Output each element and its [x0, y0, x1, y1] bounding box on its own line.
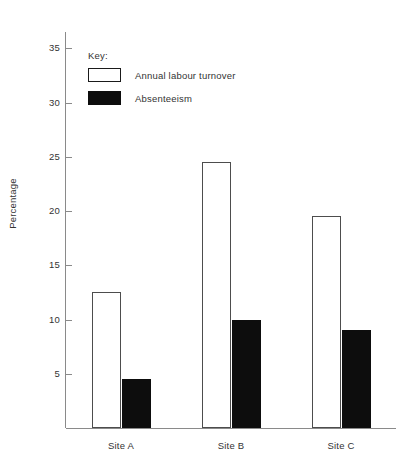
y-tick-label: 20: [14, 206, 60, 216]
legend-title: Key:: [88, 50, 288, 61]
y-tick-label: 15: [14, 260, 60, 270]
legend-item: Annual labour turnover: [88, 68, 288, 82]
legend-item-label: Absenteeism: [135, 93, 192, 104]
bar-turnover: [202, 162, 231, 428]
legend-item-label: Annual labour turnover: [135, 70, 236, 81]
bar-turnover: [312, 216, 341, 428]
y-tick-label-text: 5: [20, 369, 60, 379]
bar-turnover: [92, 292, 121, 428]
x-tick-label: Site B: [176, 440, 286, 451]
legend-item: Absenteeism: [88, 91, 288, 105]
y-tick-label: 10: [14, 315, 60, 325]
y-tick-label-text: 25: [20, 152, 60, 162]
y-axis-title: Percentage: [7, 164, 18, 244]
y-tick-label-text: 10: [20, 315, 60, 325]
x-tick-label: Site A: [66, 440, 176, 451]
bar-chart-figure: Percentage 5101520253035 Site ASite BSit…: [0, 0, 408, 471]
bar-absenteeism: [232, 320, 261, 428]
y-tick-label: 5: [14, 369, 60, 379]
filled-rectangle-swatch-icon: [88, 91, 121, 105]
bar-absenteeism: [122, 379, 151, 428]
legend: Key: Annual labour turnover Absenteeism: [88, 50, 288, 114]
y-tick-label-text: 15: [20, 260, 60, 270]
y-tick-label-text: 35: [20, 43, 60, 53]
y-tick-label-text: 30: [20, 98, 60, 108]
x-tick-label: Site C: [286, 440, 396, 451]
open-rectangle-swatch-icon: [88, 68, 121, 82]
y-tick-label: 35: [14, 43, 60, 53]
y-tick-label-text: 20: [20, 206, 60, 216]
x-axis-line: [66, 428, 396, 429]
y-tick-label: 25: [14, 152, 60, 162]
bar-absenteeism: [342, 330, 371, 428]
y-tick-label: 30: [14, 98, 60, 108]
